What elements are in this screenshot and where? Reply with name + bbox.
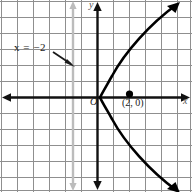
directrix-annotation-arrow <box>53 52 75 67</box>
focus-point-label: (2, 0) <box>122 97 144 108</box>
directrix-line <box>69 1 76 191</box>
origin-label: O <box>90 96 97 107</box>
parabola-figure: x = −2 O (2, 0) x y <box>0 0 192 192</box>
x-axis-label: x <box>183 95 187 106</box>
directrix-label: x = −2 <box>14 41 46 53</box>
y-axis-label: y <box>89 0 93 10</box>
